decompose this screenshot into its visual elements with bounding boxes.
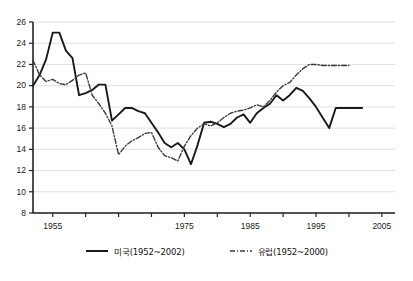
svg-text:1995: 1995 xyxy=(307,221,326,231)
svg-text:14: 14 xyxy=(17,144,27,154)
svg-text:26: 26 xyxy=(17,17,27,27)
y-axis-tick-labels: 8101214161820222426 xyxy=(17,17,27,218)
series-line-us xyxy=(33,33,362,165)
legend-label-us: 미국(1952~2002) xyxy=(114,245,184,257)
svg-text:12: 12 xyxy=(17,165,27,175)
svg-text:20: 20 xyxy=(17,80,27,90)
svg-text:8: 8 xyxy=(21,208,26,218)
svg-text:2005: 2005 xyxy=(372,221,391,231)
svg-text:1975: 1975 xyxy=(175,221,194,231)
legend-swatch-dashdot-icon xyxy=(229,246,253,256)
svg-text:10: 10 xyxy=(17,187,27,197)
gridlines xyxy=(33,22,395,213)
svg-text:22: 22 xyxy=(17,59,27,69)
legend-item-eu: 유럽(1952~2000) xyxy=(229,245,328,257)
x-axis-tick-labels: 19551975198519952005 xyxy=(43,221,391,231)
svg-text:16: 16 xyxy=(17,123,27,133)
svg-text:24: 24 xyxy=(17,38,27,48)
line-chart: 8101214161820222426 19551975198519952005… xyxy=(0,0,413,281)
svg-text:1955: 1955 xyxy=(43,221,62,231)
legend-label-eu: 유럽(1952~2000) xyxy=(258,245,328,257)
chart-plot-area: 8101214161820222426 19551975198519952005 xyxy=(0,0,413,281)
series-line-eu xyxy=(33,60,349,161)
data-series-group xyxy=(33,33,362,165)
svg-text:18: 18 xyxy=(17,102,27,112)
legend-swatch-solid-icon xyxy=(85,246,109,256)
svg-text:1985: 1985 xyxy=(241,221,260,231)
legend-item-us: 미국(1952~2002) xyxy=(85,245,184,257)
chart-legend: 미국(1952~2002) 유럽(1952~2000) xyxy=(0,245,413,257)
